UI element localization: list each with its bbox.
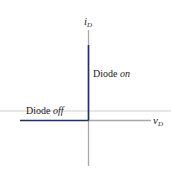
diode-on-label: Diode on [93,69,130,79]
i-axis-label-sub: D [87,21,92,29]
diode-on-prefix: Diode [93,68,120,79]
diode-on-state: on [120,68,130,79]
diode-off-label: Diode off [26,106,64,116]
v-axis-label: vD [153,115,163,128]
v-axis-label-sub: D [158,120,163,128]
i-axis-label: iD [84,16,92,29]
diode-iv-diagram: iD vD Diode on Diode off [0,0,171,171]
diode-off-prefix: Diode [26,105,53,116]
diode-off-state: off [53,105,64,116]
